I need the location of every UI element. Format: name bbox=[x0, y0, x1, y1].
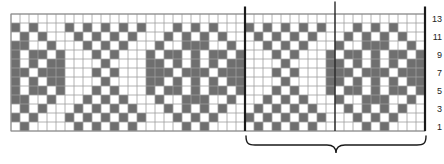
chart-cell-dark bbox=[11, 77, 20, 86]
chart-cell-dark bbox=[353, 59, 362, 68]
chart-cell-dark bbox=[281, 77, 290, 86]
chart-cell-dark bbox=[29, 23, 38, 32]
chart-cell-dark bbox=[299, 95, 308, 104]
chart-cell-dark bbox=[56, 86, 65, 95]
chart-cell-dark bbox=[173, 23, 182, 32]
chart-cell-dark bbox=[119, 23, 128, 32]
chart-cell-dark bbox=[371, 68, 380, 77]
chart-cell-dark bbox=[110, 68, 119, 77]
chart-cell-dark bbox=[389, 86, 398, 95]
chart-cell-dark bbox=[245, 113, 254, 122]
chart-cell-dark bbox=[263, 41, 272, 50]
chart-cell-dark bbox=[164, 68, 173, 77]
chart-cell-dark bbox=[407, 41, 416, 50]
chart-cell-dark bbox=[389, 113, 398, 122]
chart-cell-dark bbox=[47, 77, 56, 86]
chart-cell-dark bbox=[182, 122, 191, 131]
chart-cell-dark bbox=[353, 86, 362, 95]
chart-cell-dark bbox=[236, 68, 245, 77]
chart-cell-dark bbox=[227, 77, 236, 86]
chart-cell-dark bbox=[290, 104, 299, 113]
chart-cell-dark bbox=[236, 77, 245, 86]
chart-cell-dark bbox=[92, 86, 101, 95]
chart-cell-dark bbox=[110, 32, 119, 41]
chart-cell-dark bbox=[110, 104, 119, 113]
chart-cell-dark bbox=[263, 113, 272, 122]
chart-cell-dark bbox=[11, 41, 20, 50]
chart-cell-dark bbox=[209, 50, 218, 59]
chart-cell-dark bbox=[353, 77, 362, 86]
chart-cell-dark bbox=[119, 95, 128, 104]
chart-cell-dark bbox=[362, 95, 371, 104]
chart-cell-dark bbox=[281, 41, 290, 50]
chart-cell-dark bbox=[326, 86, 335, 95]
chart-cell-dark bbox=[407, 68, 416, 77]
chart-cell-dark bbox=[353, 113, 362, 122]
chart-cell-dark bbox=[74, 32, 83, 41]
chart-cell-dark bbox=[236, 59, 245, 68]
chart-cell-dark bbox=[308, 32, 317, 41]
chart-cell-dark bbox=[200, 32, 209, 41]
chart-cell-dark bbox=[182, 32, 191, 41]
chart-cell-dark bbox=[281, 23, 290, 32]
chart-cell-dark bbox=[191, 23, 200, 32]
chart-cell-dark bbox=[47, 68, 56, 77]
chart-cell-dark bbox=[200, 68, 209, 77]
chart-cell-dark bbox=[362, 68, 371, 77]
chart-cell-dark bbox=[38, 50, 47, 59]
chart-cell-dark bbox=[110, 86, 119, 95]
chart-cell-dark bbox=[92, 32, 101, 41]
chart-cell-dark bbox=[56, 50, 65, 59]
chart-cell-dark bbox=[29, 113, 38, 122]
chart-cell-dark bbox=[344, 86, 353, 95]
chart-cell-dark bbox=[47, 95, 56, 104]
chart-cell-dark bbox=[344, 50, 353, 59]
chart-cell-dark bbox=[416, 59, 425, 68]
chart-cell-dark bbox=[362, 122, 371, 131]
chart-cell-dark bbox=[299, 113, 308, 122]
chart-cell-dark bbox=[218, 32, 227, 41]
chart-cell-dark bbox=[218, 50, 227, 59]
chart-cell-dark bbox=[416, 86, 425, 95]
chart-cell-dark bbox=[371, 50, 380, 59]
chart-cell-dark bbox=[389, 77, 398, 86]
chart-cell-dark bbox=[371, 86, 380, 95]
chart-cell-dark bbox=[20, 104, 29, 113]
chart-cell-dark bbox=[335, 59, 344, 68]
chart-cell-dark bbox=[146, 77, 155, 86]
chart-cell-dark bbox=[227, 68, 236, 77]
chart-cell-dark bbox=[137, 113, 146, 122]
chart-cell-dark bbox=[398, 104, 407, 113]
row-number-label: 1 bbox=[437, 122, 442, 132]
chart-cell-dark bbox=[173, 50, 182, 59]
chart-cell-dark bbox=[164, 104, 173, 113]
chart-cell-dark bbox=[173, 77, 182, 86]
chart-cell-dark bbox=[11, 23, 20, 32]
chart-cell-dark bbox=[56, 59, 65, 68]
chart-cell-dark bbox=[353, 50, 362, 59]
chart-cell-dark bbox=[101, 59, 110, 68]
chart-cell-dark bbox=[335, 95, 344, 104]
chart-cell-dark bbox=[56, 77, 65, 86]
chart-cell-dark bbox=[272, 50, 281, 59]
chart-cell-dark bbox=[29, 77, 38, 86]
chart-cell-dark bbox=[110, 50, 119, 59]
chart-cell-dark bbox=[74, 122, 83, 131]
chart-cell-dark bbox=[128, 104, 137, 113]
chart-cell-dark bbox=[191, 86, 200, 95]
row-number-label: 7 bbox=[437, 68, 442, 78]
chart-cell-dark bbox=[38, 86, 47, 95]
chart-cell-dark bbox=[11, 59, 20, 68]
chart-cell-dark bbox=[191, 113, 200, 122]
chart-cell-dark bbox=[173, 86, 182, 95]
chart-cell-dark bbox=[398, 50, 407, 59]
chart-cell-dark bbox=[272, 86, 281, 95]
chart-cell-dark bbox=[65, 23, 74, 32]
row-number-label: 5 bbox=[437, 86, 442, 96]
chart-cell-dark bbox=[245, 23, 254, 32]
chart-cell-dark bbox=[272, 104, 281, 113]
chart-cell-dark bbox=[209, 23, 218, 32]
chart-cell-dark bbox=[155, 59, 164, 68]
chart-cell-dark bbox=[47, 59, 56, 68]
chart-cell-dark bbox=[182, 41, 191, 50]
